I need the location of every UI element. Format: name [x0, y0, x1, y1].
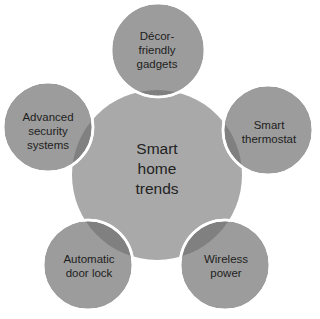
label-thermostat: Smart thermostat [242, 118, 296, 146]
center-label-line-2: home [135, 159, 178, 179]
label-thermostat-line-2: thermostat [242, 132, 296, 146]
label-wireless-line-2: power [204, 266, 248, 280]
label-doorlock-line-2: door lock [63, 266, 114, 280]
label-decor: Décor- friendly gadgets [137, 29, 178, 71]
label-thermostat-line-1: Smart [242, 118, 296, 132]
label-decor-line-3: gadgets [137, 57, 178, 71]
label-security-line-1: Advanced [22, 110, 73, 124]
label-wireless-line-1: Wireless [204, 252, 248, 266]
center-label-line-3: trends [135, 179, 178, 199]
center-label: Smart home trends [135, 139, 178, 199]
label-decor-line-1: Décor- [137, 29, 178, 43]
center-label-line-1: Smart [135, 139, 178, 159]
label-security-line-2: security [22, 124, 73, 138]
label-security: Advanced security systems [22, 110, 73, 152]
label-decor-line-2: friendly [137, 43, 178, 57]
label-doorlock: Automatic door lock [63, 252, 114, 280]
label-wireless: Wireless power [204, 252, 248, 280]
label-security-line-3: systems [22, 138, 73, 152]
label-doorlock-line-1: Automatic [63, 252, 114, 266]
